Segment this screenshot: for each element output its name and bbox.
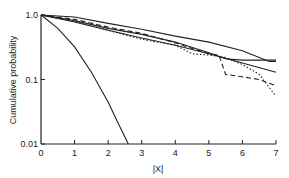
x-tick-label: 7: [273, 148, 278, 158]
y-tick-label: 1.0: [25, 10, 38, 20]
x-tick-label: 0: [38, 148, 43, 158]
series-group: [41, 15, 276, 144]
x-tick-label: 6: [240, 148, 245, 158]
y-tick-label: 0.01: [20, 139, 38, 149]
axes: 012345671.00.10.01: [20, 10, 278, 158]
cumulative-probability-chart: 012345671.00.10.01 Cumulative probabilit…: [0, 0, 289, 178]
x-tick-label: 1: [72, 148, 77, 158]
y-axis-label: Cumulative probability: [8, 35, 18, 124]
series-gaussian: [41, 15, 128, 144]
y-tick-label: 0.1: [25, 75, 38, 85]
x-tick-label: 2: [106, 148, 111, 158]
x-tick-label: 5: [206, 148, 211, 158]
series-empirical-dotted: [41, 15, 276, 96]
x-tick-label: 4: [173, 148, 178, 158]
x-axis-label: |X|: [153, 164, 164, 174]
x-tick-label: 3: [139, 148, 144, 158]
